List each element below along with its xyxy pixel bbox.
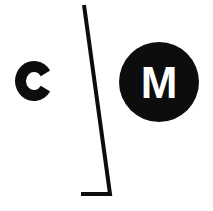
- letter-m-glyph: M: [141, 58, 178, 107]
- circle-badge-group: M: [119, 42, 199, 122]
- logo-canvas: M: [0, 0, 213, 211]
- logo-mark: M: [0, 0, 213, 211]
